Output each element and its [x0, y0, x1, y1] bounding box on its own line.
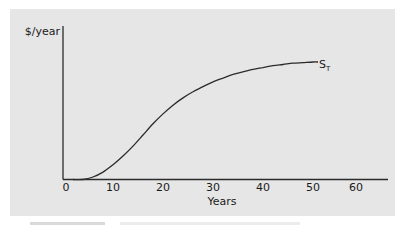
curve-label-main: S — [319, 58, 326, 71]
x-tick-label: 50 — [306, 181, 320, 194]
x-tick-label: 30 — [206, 181, 220, 194]
x-tick-label: 60 — [349, 181, 363, 194]
chart-svg: $/year 0 10 20 30 40 50 60 Years ST — [0, 0, 414, 231]
x-tick-label: 20 — [156, 181, 170, 194]
faint-caption-artifact — [120, 222, 300, 225]
s-curve-line — [73, 62, 318, 180]
x-tick-labels: 0 10 20 30 40 50 60 — [63, 181, 364, 194]
x-tick-label: 10 — [106, 181, 120, 194]
x-axis-label: Years — [206, 195, 236, 208]
x-tick-label: 40 — [256, 181, 270, 194]
curve-label-subscript: T — [325, 65, 331, 73]
y-axis-label: $/year — [25, 25, 61, 38]
x-tick-label: 0 — [63, 181, 70, 194]
faint-caption-artifact — [30, 222, 105, 225]
curve-label: ST — [319, 58, 331, 73]
